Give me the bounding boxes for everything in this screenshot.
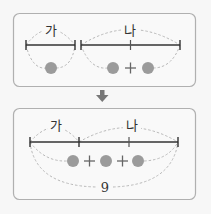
dot <box>107 62 119 74</box>
dot <box>142 62 154 74</box>
label-ga: 가 <box>50 118 62 133</box>
segment-diagram: 가 나 가 나 <box>0 0 211 214</box>
top-panel-frame <box>14 14 196 87</box>
dot <box>132 155 144 167</box>
dot <box>45 62 57 74</box>
label-na: 나 <box>126 118 138 133</box>
bottom-panel: 가 나 9 <box>14 109 196 200</box>
dot <box>67 155 79 167</box>
label-na: 나 <box>124 23 136 38</box>
top-panel: 가 나 <box>14 14 196 87</box>
label-ga: 가 <box>45 23 57 38</box>
dot <box>100 155 112 167</box>
arrow-down-icon <box>96 90 109 102</box>
total-label: 9 <box>101 180 109 195</box>
